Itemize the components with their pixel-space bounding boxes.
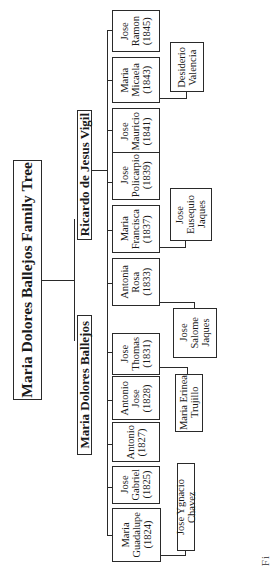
child-name: Maria Micaela (1843) xyxy=(119,63,152,97)
child-box: Maria Guadalupe (1824) xyxy=(112,508,161,562)
spouse-box: Jose Ygnacio Chavez xyxy=(177,463,195,551)
child-box: Antonio Jose (1828) xyxy=(112,376,160,420)
child-box: Jose Mauricio (1841) xyxy=(112,108,160,154)
spouse-name: Jose Salome Jaques xyxy=(178,317,211,349)
family-tree-title: Maria Dolores Ballejos Family Tree xyxy=(19,162,35,398)
child-name: Antonia Rosa (1833) xyxy=(119,265,152,299)
spouse-box: Desiderio Valencia xyxy=(170,42,204,92)
child-name: Maria Guadalupe (1824) xyxy=(120,512,153,557)
parent-box-father: Ricardo de Jesus Vigil xyxy=(77,110,92,240)
child-name: Jose Thomas (1831) xyxy=(119,337,152,371)
child-box: Jose Gabriel (1825) xyxy=(112,466,160,504)
spouse-name: Maria Erinea Trujillo xyxy=(178,375,200,430)
spouse-name: Jose Ygnacio Chavez xyxy=(175,464,197,550)
spouse-name: Jose Eusequio Jaques xyxy=(174,195,207,234)
figure-caption-fragment: Fi xyxy=(260,555,270,566)
connector-father-spine xyxy=(92,170,107,171)
spouse-connector xyxy=(185,240,186,248)
child-box: Jose Policarpio (1839) xyxy=(112,152,160,200)
child-box: Maria Micaela (1843) xyxy=(112,57,160,103)
parent-box-mother: Maria Dolores Ballejos xyxy=(77,315,92,455)
spouse-connector xyxy=(161,555,186,556)
child-name: Jose Ramon (1845) xyxy=(119,16,152,46)
spouse-connector xyxy=(160,98,187,99)
spouse-box: Maria Erinea Trujillo xyxy=(175,374,203,432)
child-box: Jose Thomas (1831) xyxy=(112,333,160,375)
spouse-connector xyxy=(160,367,188,368)
spouse-name: Desiderio Valencia xyxy=(176,47,198,88)
connector-parents-vertical xyxy=(74,219,75,341)
child-box: Antonia Rosa (1833) xyxy=(112,258,160,306)
child-box: Maria Francisca (1837) xyxy=(112,205,160,253)
figure-caption-cutoff: Fi xyxy=(256,150,270,566)
child-name: Jose Mauricio (1841) xyxy=(119,112,152,151)
child-name: Jose Gabriel (1825) xyxy=(119,469,152,501)
parent-mother-name: Maria Dolores Ballejos xyxy=(78,321,92,449)
child-name: Maria Francisca (1837) xyxy=(119,209,152,249)
child-name: Jose Policarpio (1839) xyxy=(119,154,152,197)
spouse-box: Jose Eusequio Jaques xyxy=(170,188,212,241)
family-tree-title-box: Maria Dolores Ballejos Family Tree xyxy=(13,160,42,400)
child-box: Antonio (1827) xyxy=(112,422,160,462)
child-name: Antonio Jose (1828) xyxy=(119,381,152,415)
spouse-connector xyxy=(160,302,195,303)
connector-title-parents xyxy=(42,280,75,281)
child-box: Jose Ramon (1845) xyxy=(112,10,160,52)
child-name: Antonio (1827) xyxy=(125,425,147,459)
spouse-box: Jose Salome Jaques xyxy=(173,308,217,358)
spouse-connector xyxy=(160,247,186,248)
parent-father-name: Ricardo de Jesus Vigil xyxy=(78,113,92,236)
